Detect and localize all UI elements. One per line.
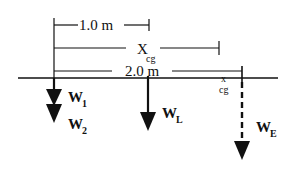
arrow-down-icon xyxy=(140,112,156,131)
force-w2-label: W xyxy=(68,116,83,132)
force-we: W E xyxy=(234,66,277,160)
dimension-1m: 1.0 m xyxy=(54,17,149,33)
cg-marker-symbol: x xyxy=(221,73,226,84)
lever-force-diagram: 1.0 m X cg 2.0 m x cg W 1 W 2 W L xyxy=(0,0,293,171)
force-wl: W L xyxy=(140,76,183,131)
force-w1-w2: W 1 W 2 xyxy=(46,78,87,136)
force-wl-label: W xyxy=(162,105,177,121)
arrow-down-icon xyxy=(46,104,62,123)
force-we-subscript: E xyxy=(270,128,277,139)
dimension-xcg: X cg xyxy=(54,41,219,64)
force-w1-label: W xyxy=(68,89,83,105)
arrow-down-icon xyxy=(46,89,62,106)
arrow-down-icon xyxy=(234,141,250,160)
cg-marker-label: cg xyxy=(219,84,228,95)
cg-marker: x cg xyxy=(219,73,228,95)
force-w2-subscript: 2 xyxy=(82,125,87,136)
force-wl-subscript: L xyxy=(176,114,183,125)
force-w1-subscript: 1 xyxy=(82,98,87,109)
dimension-1m-label: 1.0 m xyxy=(79,17,114,33)
force-we-label: W xyxy=(256,119,271,135)
dimension-2m-label: 2.0 m xyxy=(125,63,160,79)
